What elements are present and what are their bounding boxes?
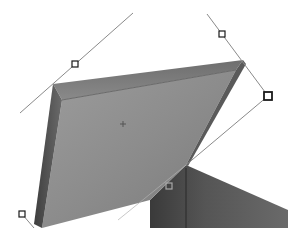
photo-layer <box>0 0 306 240</box>
image-canvas[interactable] <box>0 0 306 240</box>
handle-right-corner[interactable] <box>264 92 272 100</box>
handle-left-edge-mid[interactable] <box>72 61 78 67</box>
handle-right-top[interactable] <box>219 31 225 37</box>
handle-bottom-left[interactable] <box>19 211 25 217</box>
